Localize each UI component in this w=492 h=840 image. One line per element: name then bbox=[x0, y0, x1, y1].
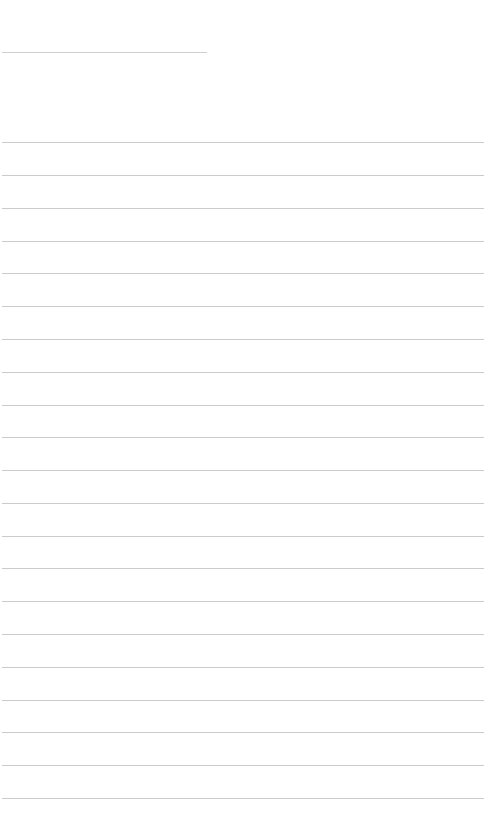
note-line-field[interactable] bbox=[2, 510, 484, 536]
ruled-line bbox=[2, 372, 484, 373]
ruled-line bbox=[2, 273, 484, 274]
ruled-line bbox=[2, 241, 484, 242]
ruled-line bbox=[2, 437, 484, 438]
note-line-field[interactable] bbox=[2, 575, 484, 601]
ruled-line bbox=[2, 175, 484, 176]
note-line-field[interactable] bbox=[2, 641, 484, 667]
ruled-line bbox=[2, 339, 484, 340]
note-line-field[interactable] bbox=[2, 477, 484, 503]
ruled-line bbox=[2, 601, 484, 602]
note-line-field[interactable] bbox=[2, 772, 484, 798]
note-line-field[interactable] bbox=[2, 247, 484, 273]
note-line-field[interactable] bbox=[2, 379, 484, 405]
note-line-field[interactable] bbox=[2, 739, 484, 765]
note-line-field[interactable] bbox=[2, 313, 484, 339]
note-line-field[interactable] bbox=[2, 674, 484, 700]
note-line-field[interactable] bbox=[2, 346, 484, 372]
ruled-line bbox=[2, 634, 484, 635]
ruled-line bbox=[2, 142, 484, 143]
ruled-line bbox=[2, 568, 484, 569]
note-line-field[interactable] bbox=[2, 411, 484, 437]
note-line-field[interactable] bbox=[2, 608, 484, 634]
note-line-field[interactable] bbox=[2, 182, 484, 208]
note-line-field[interactable] bbox=[2, 116, 484, 142]
ruled-line bbox=[2, 503, 484, 504]
ruled-line bbox=[2, 700, 484, 701]
ruled-line bbox=[2, 667, 484, 668]
ruled-line bbox=[2, 536, 484, 537]
ruled-line bbox=[2, 765, 484, 766]
note-line-field[interactable] bbox=[2, 215, 484, 241]
note-line-field[interactable] bbox=[2, 149, 484, 175]
title-underline bbox=[2, 52, 207, 53]
note-line-field[interactable] bbox=[2, 444, 484, 470]
title-field[interactable] bbox=[2, 26, 207, 50]
ruled-line bbox=[2, 470, 484, 471]
ruled-line bbox=[2, 732, 484, 733]
ruled-note-page bbox=[0, 0, 492, 840]
ruled-line bbox=[2, 405, 484, 406]
note-line-field[interactable] bbox=[2, 706, 484, 732]
ruled-line bbox=[2, 208, 484, 209]
note-line-field[interactable] bbox=[2, 542, 484, 568]
ruled-line bbox=[2, 306, 484, 307]
ruled-line bbox=[2, 798, 484, 799]
note-line-field[interactable] bbox=[2, 280, 484, 306]
